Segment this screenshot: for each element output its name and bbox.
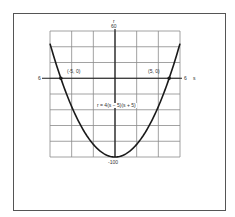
x-axis-label: s xyxy=(193,76,196,81)
equation-label: r = 4(s − 5)(s + 5) xyxy=(96,103,137,108)
x-max-tick-label: 6 xyxy=(184,76,187,81)
root-point-marker xyxy=(59,76,63,80)
chart-plot xyxy=(0,0,235,217)
root-right-label: (5, 0) xyxy=(148,69,160,74)
y-min-tick-label: -100 xyxy=(108,160,118,165)
x-min-tick-label: 6 xyxy=(38,76,41,81)
root-left-label: (-5, 0) xyxy=(67,69,80,74)
root-point-marker xyxy=(167,76,171,80)
y-max-tick-label: 60 xyxy=(111,24,117,29)
